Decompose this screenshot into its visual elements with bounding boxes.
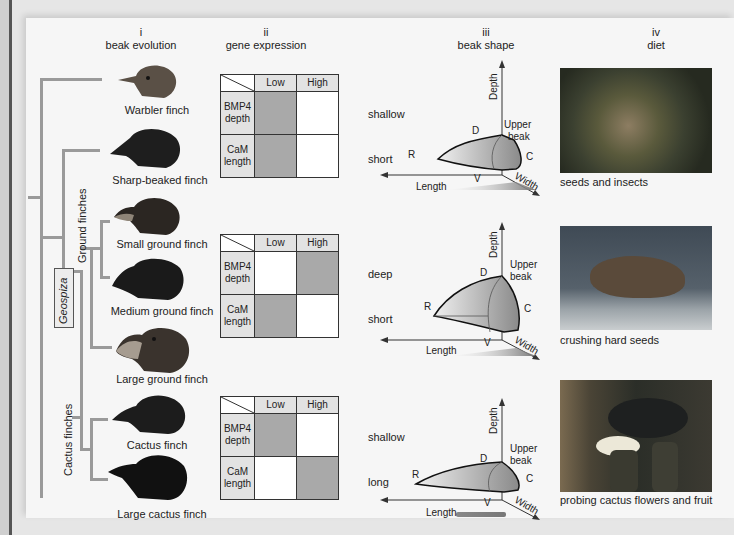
svg-text:D: D — [480, 267, 487, 278]
finch-label: Small ground finch — [112, 238, 212, 250]
finch-label: Medium ground finch — [102, 305, 222, 317]
bird-head-icon — [112, 193, 184, 237]
expression-cell-high — [297, 92, 339, 135]
diet-photo-warbler — [560, 68, 712, 173]
expression-cell-high — [297, 135, 339, 178]
gene-expression-table-2: Low High BMP4depth CaMlength — [220, 234, 339, 338]
svg-text:Depth: Depth — [488, 407, 499, 434]
diet-photo-cactus-finch — [560, 380, 712, 492]
genus-label-box: Geospiza — [54, 268, 74, 328]
svg-text:R: R — [424, 301, 431, 312]
cactus-stem — [652, 442, 678, 492]
diet-caption: crushing hard seeds — [560, 334, 659, 346]
svg-text:D: D — [472, 125, 479, 136]
row-label-cam: CaMlength — [221, 295, 255, 338]
expression-cell-low — [255, 252, 297, 295]
svg-text:V: V — [484, 497, 491, 508]
svg-text:V: V — [484, 337, 491, 348]
expression-cell-high — [297, 414, 339, 457]
expression-cell-high — [297, 295, 339, 338]
finch-label: Warbler finch — [112, 104, 202, 116]
bird-photo-silhouette — [608, 398, 688, 438]
bird-head-icon — [106, 450, 192, 502]
svg-text:C: C — [526, 473, 533, 484]
svg-text:C: C — [524, 303, 531, 314]
table-corner — [221, 75, 255, 92]
row-label-bmp4: BMP4depth — [221, 414, 255, 457]
finch-label: Large cactus finch — [112, 508, 212, 520]
svg-text:Depth: Depth — [488, 231, 499, 258]
bird-head-icon — [110, 390, 190, 436]
cactus-stem — [610, 450, 638, 492]
beak-shape-diagram-2: D R C V Upper beak Length Depth Width — [376, 220, 556, 360]
beak-shape-diagram-3: D R C V Upper beak Length Depth Width — [376, 382, 556, 522]
svg-text:Length: Length — [426, 507, 457, 518]
svg-text:Upper: Upper — [510, 259, 538, 270]
beak-shape-diagram-1: D R C V Upper beak Length Depth Width — [376, 60, 556, 200]
col-header-low: Low — [255, 75, 297, 92]
finch-label: Large ground finch — [112, 373, 212, 385]
col-header-high: High — [297, 397, 339, 414]
figure-panel: i beak evolution ii gene expression iii … — [26, 18, 734, 518]
column-header-diet: iv diet — [616, 26, 696, 52]
bird-head-icon — [114, 60, 184, 100]
bird-head-icon — [112, 323, 194, 375]
col-header-low: Low — [255, 397, 297, 414]
svg-text:R: R — [412, 469, 419, 480]
expression-cell-low — [255, 457, 297, 500]
bird-head-icon — [108, 124, 188, 170]
gene-expression-table-1: Low High BMP4depth CaMlength — [220, 74, 339, 178]
diet-caption: seeds and insects — [560, 176, 648, 188]
group-label-ground-finches: Ground finches — [76, 188, 88, 263]
svg-text:C: C — [526, 151, 533, 162]
column-header-beak-evolution: i beak evolution — [86, 26, 196, 52]
finch-label: Cactus finch — [112, 439, 202, 451]
column-header-gene-expression: ii gene expression — [206, 26, 326, 52]
row-label-bmp4: BMP4depth — [221, 92, 255, 135]
expression-cell-low — [255, 414, 297, 457]
svg-text:beak: beak — [510, 271, 533, 282]
svg-text:V: V — [474, 173, 481, 184]
svg-text:Depth: Depth — [488, 73, 499, 100]
expression-cell-high — [297, 457, 339, 500]
row-label-bmp4: BMP4depth — [221, 252, 255, 295]
expression-cell-high — [297, 252, 339, 295]
group-label-cactus-finches: Cactus finches — [62, 404, 74, 476]
svg-text:Upper: Upper — [504, 119, 532, 130]
col-header-high: High — [297, 235, 339, 252]
finch-label: Sharp-beaked finch — [110, 174, 210, 186]
page-edge-bar — [9, 0, 12, 535]
svg-text:beak: beak — [510, 455, 533, 466]
row-label-cam: CaMlength — [221, 457, 255, 500]
row-label-cam: CaMlength — [221, 135, 255, 178]
expression-cell-low — [255, 295, 297, 338]
page-edge-strip — [0, 0, 9, 535]
diet-caption: probing cactus flowers and fruit — [560, 494, 712, 506]
table-corner — [221, 397, 255, 414]
svg-text:beak: beak — [508, 131, 531, 142]
svg-text:Upper: Upper — [510, 443, 538, 454]
bird-head-icon — [110, 254, 188, 302]
diet-photo-ground-finch — [560, 226, 712, 330]
col-header-high: High — [297, 75, 339, 92]
svg-text:Length: Length — [426, 345, 457, 356]
table-corner — [221, 235, 255, 252]
bird-photo-silhouette — [590, 256, 685, 298]
col-header-low: Low — [255, 235, 297, 252]
expression-cell-low — [255, 92, 297, 135]
svg-text:D: D — [480, 453, 487, 464]
svg-text:R: R — [408, 149, 415, 160]
svg-text:Length: Length — [416, 181, 447, 192]
column-header-beak-shape: iii beak shape — [436, 26, 536, 52]
gene-expression-table-3: Low High BMP4depth CaMlength — [220, 396, 339, 500]
expression-cell-low — [255, 135, 297, 178]
